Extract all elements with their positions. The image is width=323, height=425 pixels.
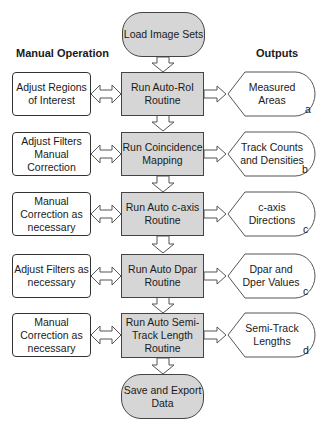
end-terminal: Save and Export Data xyxy=(121,374,204,419)
output-2: Track Counts and Densities xyxy=(238,132,306,176)
output-tag-4: c xyxy=(303,285,308,297)
double-arrow-icon xyxy=(91,267,121,285)
process-step-2: Run Coincidence Mapping xyxy=(121,132,204,176)
double-arrow-icon xyxy=(91,145,121,163)
output-tag-3: c xyxy=(303,223,308,235)
right-arrow-icon xyxy=(204,146,226,162)
process-step-1: Run Auto-RoI Routine xyxy=(121,72,204,116)
output-tag-2: b xyxy=(302,163,308,175)
double-arrow-icon xyxy=(91,326,121,344)
down-arrow-icon xyxy=(152,176,174,192)
down-arrow-icon xyxy=(152,57,174,72)
process-step-5: Run Auto Semi-Track Length Routine xyxy=(121,313,204,358)
output-1: Measured Areas xyxy=(240,72,304,116)
down-arrow-icon xyxy=(152,236,174,253)
double-arrow-icon xyxy=(91,85,121,103)
output-5: Semi-Track Lengths xyxy=(240,313,304,357)
down-arrow-icon xyxy=(152,297,174,313)
outputs-header: Outputs xyxy=(256,47,298,59)
start-terminal: Load Image Sets xyxy=(122,12,205,57)
manual-step-4: Adjust Filters as necessary xyxy=(12,254,91,298)
start-label: Load Image Sets xyxy=(124,28,203,41)
manual-step-5: Manual Correction as necessary xyxy=(12,313,91,357)
process-step-3: Run Auto c-axis Routine xyxy=(121,192,204,236)
output-tag-5: d xyxy=(303,344,309,356)
output-3: c-axis Directions xyxy=(240,192,304,236)
manual-step-2: Adjust Filters Manual Correction xyxy=(12,132,91,176)
manual-header: Manual Operation xyxy=(16,47,109,59)
output-tag-1: a xyxy=(305,103,311,115)
manual-step-3: Manual Correction as necessary xyxy=(12,192,91,236)
down-arrow-icon xyxy=(152,115,174,131)
right-arrow-icon xyxy=(204,327,226,343)
output-4: Dpar and Dper Values xyxy=(238,254,304,298)
right-arrow-icon xyxy=(204,206,226,222)
double-arrow-icon xyxy=(91,205,121,223)
manual-step-1: Adjust Regions of Interest xyxy=(12,72,91,116)
end-label: Save and Export Data xyxy=(122,384,203,410)
right-arrow-icon xyxy=(204,86,226,102)
right-arrow-icon xyxy=(204,268,226,284)
down-arrow-icon xyxy=(152,358,174,374)
process-step-4: Run Auto Dpar Routine xyxy=(121,254,204,298)
